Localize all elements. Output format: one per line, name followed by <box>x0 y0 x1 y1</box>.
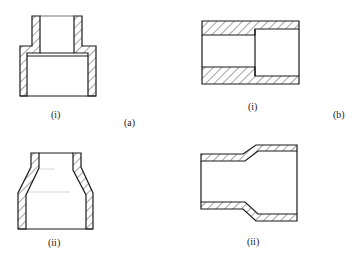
label-group-b: (b) <box>333 110 345 120</box>
top-wall-section <box>201 145 297 161</box>
label-group-a: (a) <box>124 118 135 128</box>
label-a-ii: (ii) <box>48 238 60 248</box>
left-wall-section <box>18 153 39 229</box>
label-a-i: (i) <box>51 110 60 120</box>
diagram-canvas <box>0 0 359 258</box>
figure-b-ii <box>201 145 297 221</box>
bottom-wall-section <box>201 202 297 221</box>
figure-a-i <box>20 16 96 96</box>
top-wall-section <box>202 21 299 35</box>
label-b-ii: (ii) <box>247 237 259 247</box>
figure-a-ii <box>18 153 93 229</box>
label-b-i: (i) <box>248 102 257 112</box>
bottom-wall-section <box>202 67 299 84</box>
figure-b-i <box>202 21 299 84</box>
right-wall-section <box>73 153 93 229</box>
